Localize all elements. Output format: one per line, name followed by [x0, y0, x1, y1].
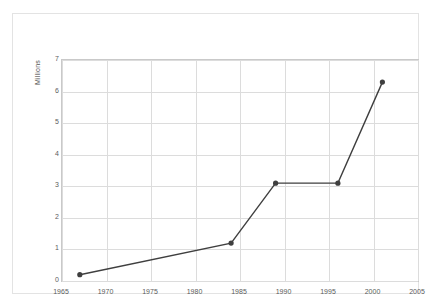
x-axis-tick-label: 2005 [397, 288, 432, 296]
gridline-horizontal [62, 281, 418, 282]
x-axis-tick-labels: 196519701975198019851990199520002005 [61, 288, 419, 300]
x-axis-tick-label: 1975 [130, 288, 170, 296]
data-point-marker [77, 272, 82, 277]
data-point-marker [229, 241, 234, 246]
x-axis-tick-label: 1980 [175, 288, 215, 296]
y-axis-tick-label: 2 [43, 213, 59, 221]
line-series [62, 60, 418, 281]
data-point-marker [273, 181, 278, 186]
x-axis-tick-label: 1970 [86, 288, 126, 296]
y-axis-tick-label: 4 [43, 150, 59, 158]
gridline-vertical [418, 60, 419, 281]
plot-area [61, 59, 419, 282]
x-axis-tick-label: 1990 [264, 288, 304, 296]
series-line [80, 82, 383, 275]
x-axis-tick-label: 1965 [41, 288, 81, 296]
x-axis-tick-label: 1995 [308, 288, 348, 296]
y-axis-tick-labels: 01234567 [39, 59, 59, 282]
y-axis-tick-label: 3 [43, 181, 59, 189]
y-axis-tick-label: 5 [43, 118, 59, 126]
y-axis-tick-label: 0 [43, 276, 59, 284]
y-axis-tick-label: 1 [43, 244, 59, 252]
chart-frame: Millions 01234567 1965197019751980198519… [12, 13, 419, 294]
x-axis-tick-label: 2000 [353, 288, 393, 296]
data-point-marker [380, 80, 385, 85]
x-axis-tick-label: 1985 [219, 288, 259, 296]
y-axis-tick-label: 7 [43, 55, 59, 63]
y-axis-tick-label: 6 [43, 87, 59, 95]
data-point-marker [335, 181, 340, 186]
